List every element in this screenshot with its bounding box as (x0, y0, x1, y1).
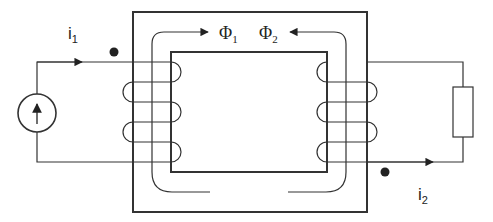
secondary-wire-bottom (367, 137, 463, 162)
load-resistor (453, 87, 473, 137)
secondary-wire-top (367, 62, 463, 87)
i1-label: i1 (68, 25, 78, 45)
flux-path-1-bottom (152, 172, 210, 192)
phi2-label: Φ2 (259, 24, 278, 45)
secondary-polarity-dot (381, 168, 390, 177)
flux-path-2-bottom (288, 172, 346, 192)
primary-polarity-dot (110, 48, 119, 57)
primary-wire-top (37, 62, 171, 94)
core-outer (133, 12, 367, 212)
i2-label: i2 (418, 186, 428, 206)
core-window (171, 52, 327, 172)
primary-wire-bottom (37, 132, 133, 162)
phi1-label: Φ1 (219, 24, 238, 45)
transformer-diagram: i1 i2 Φ1 Φ2 (0, 0, 493, 222)
